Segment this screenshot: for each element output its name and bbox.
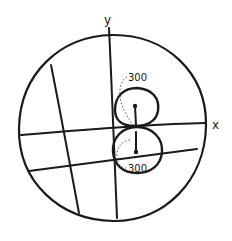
upper-angle-label: 300 (128, 72, 147, 83)
upper-radius-line (135, 106, 136, 125)
x-axis-label: x (212, 118, 219, 132)
y-axis-label: y (104, 13, 111, 27)
diagram-canvas: y x 300 300 (0, 0, 232, 241)
y-axis-line (109, 28, 117, 218)
lower-center-dot (134, 150, 138, 154)
lower-angle-label: 300 (128, 163, 147, 174)
upper-angle-arc (120, 77, 135, 126)
vertical-line-left (51, 65, 79, 213)
upper-center-dot (133, 104, 137, 108)
